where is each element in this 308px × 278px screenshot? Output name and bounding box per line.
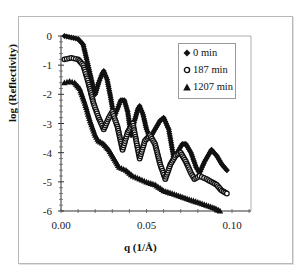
- x-tick-label: 0.00: [51, 219, 71, 231]
- legend: 0 min 187 min 1207 min: [178, 43, 236, 99]
- legend-label: 0 min: [193, 47, 217, 58]
- x-tick-label: 0.05: [137, 219, 157, 231]
- legend-item-0min: 0 min: [183, 47, 217, 58]
- plot-area: 0-1-2-3-4-5-60.000.050.10: [0, 0, 308, 278]
- y-tick-label: -4: [43, 147, 53, 159]
- legend-item-1207min: 1207 min: [183, 81, 233, 92]
- legend-label: 1207 min: [193, 81, 233, 92]
- x-tick-label: 0.10: [222, 219, 242, 231]
- y-tick-label: -3: [43, 118, 53, 130]
- legend-item-187min: 187 min: [183, 64, 228, 75]
- triangle-marker-icon: [183, 83, 191, 91]
- diamond-marker-icon: [183, 49, 191, 57]
- x-axis-label: q (1/Å): [124, 241, 157, 253]
- y-axis-label: log (Reflectivity): [6, 44, 18, 122]
- y-tick-label: -6: [43, 205, 53, 217]
- y-tick-label: -5: [43, 176, 53, 188]
- circle-marker-icon: [183, 66, 191, 74]
- y-tick-label: -1: [43, 59, 52, 71]
- y-tick-label: 0: [47, 30, 53, 42]
- y-tick-label: -2: [43, 88, 52, 100]
- legend-label: 187 min: [193, 64, 228, 75]
